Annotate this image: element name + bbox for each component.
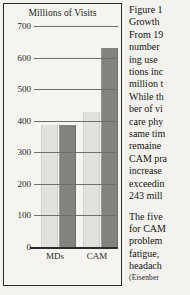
caption-line: number bbox=[129, 41, 190, 53]
chart-title: Millions of Visits bbox=[4, 8, 121, 18]
caption-line: ing use bbox=[129, 54, 190, 66]
bar-group: MDs bbox=[34, 26, 76, 247]
figure-page: Millions of Visits MDsCAM 01002003004005… bbox=[0, 0, 190, 295]
caption-line: ber of vi bbox=[129, 103, 190, 115]
caption-line: exceedin bbox=[129, 178, 190, 190]
bar-mds-light bbox=[41, 125, 58, 247]
y-axis-tick-label: 500 bbox=[18, 89, 32, 90]
gridline-200 bbox=[34, 184, 118, 185]
chart-panel: Millions of Visits MDsCAM 01002003004005… bbox=[3, 3, 122, 286]
caption-line: While th bbox=[129, 91, 190, 103]
caption-line: 243 mill bbox=[129, 190, 190, 202]
gridline-300 bbox=[34, 152, 118, 153]
caption-line: increase bbox=[129, 165, 190, 177]
caption-line: care phy bbox=[129, 116, 190, 128]
gridline-100 bbox=[34, 215, 118, 216]
caption-line: remaine bbox=[129, 140, 190, 152]
caption-line: From 19 bbox=[129, 29, 190, 41]
caption-line: same tim bbox=[129, 128, 190, 140]
y-axis-tick-label: 700 bbox=[18, 26, 32, 27]
gridline-600 bbox=[34, 58, 118, 59]
y-axis-tick-label: 0 bbox=[27, 247, 32, 248]
caption-column: Figure 1 Growth From 19number ing use ti… bbox=[129, 4, 190, 295]
caption-line: problem bbox=[129, 235, 190, 247]
caption-line: for CAM bbox=[129, 223, 190, 235]
caption-paragraph-1: From 19number ing use tions incmillion t… bbox=[129, 29, 190, 203]
caption-line: CAM pra bbox=[129, 153, 190, 165]
citation-line: (Eisenber bbox=[129, 273, 190, 283]
y-axis-tick-label: 600 bbox=[18, 58, 32, 59]
y-axis-tick-label: 300 bbox=[18, 152, 32, 153]
gridline-500 bbox=[34, 89, 118, 90]
figure-heading: Growth bbox=[129, 16, 190, 28]
y-axis-tick-label: 100 bbox=[18, 215, 32, 216]
bar-cam-light bbox=[83, 112, 100, 247]
bar-cam-dark bbox=[101, 48, 118, 247]
y-axis-tick-label: 400 bbox=[18, 121, 32, 122]
gridline-400 bbox=[34, 121, 118, 122]
bar-group-container: MDsCAM bbox=[34, 26, 118, 247]
bar-mds-dark bbox=[59, 125, 76, 247]
caption-line: fatigue, bbox=[129, 248, 190, 260]
plot-area: MDsCAM 0100200300400500600700 bbox=[34, 26, 118, 249]
figure-label: Figure 1 bbox=[129, 4, 190, 16]
caption-line: The five bbox=[129, 211, 190, 223]
gridline-0 bbox=[34, 247, 118, 248]
caption-paragraph-2: The fivefor CAMproblemfatigue, headach bbox=[129, 211, 190, 273]
caption-line: headach bbox=[129, 260, 190, 272]
bar-group: CAM bbox=[76, 26, 118, 247]
y-axis-tick-label: 200 bbox=[18, 184, 32, 185]
gridline-700 bbox=[34, 26, 118, 27]
x-axis-label-mds: MDs bbox=[34, 251, 76, 261]
x-axis-label-cam: CAM bbox=[76, 251, 118, 261]
caption-line: million t bbox=[129, 78, 190, 90]
caption-line: tions inc bbox=[129, 66, 190, 78]
